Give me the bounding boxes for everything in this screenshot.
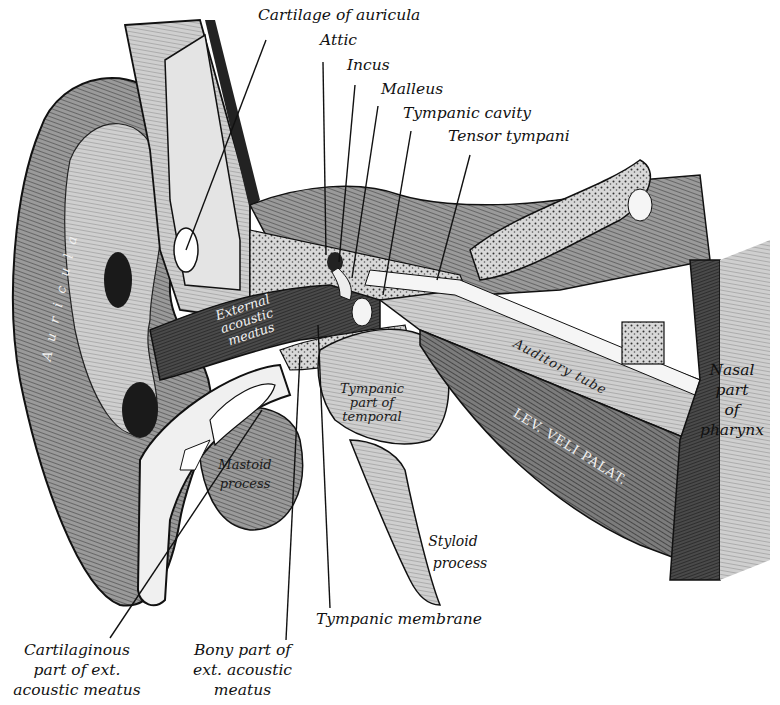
label-tympanic-membrane: Tympanic membrane xyxy=(316,610,482,628)
label-tympanic-cavity: Tympanic cavity xyxy=(403,104,531,122)
label-line: Cartilaginous xyxy=(2,640,152,660)
label-incus: Incus xyxy=(347,56,390,74)
label-line: part of ext. xyxy=(2,660,152,680)
label-line: part of xyxy=(322,396,422,410)
label-cartilage-of-auricula: Cartilage of auricula xyxy=(258,6,420,24)
label-line: Bony part of xyxy=(180,640,305,660)
label-line: process xyxy=(408,552,498,574)
label-attic: Attic xyxy=(320,31,357,49)
label-line: pharynx xyxy=(692,420,772,440)
ear-anatomy-illustration xyxy=(0,0,780,705)
label-cartilaginous-part: Cartilaginous part of ext. acoustic meat… xyxy=(2,640,152,700)
label-line: Nasal xyxy=(692,360,772,380)
label-line: of xyxy=(692,400,772,420)
styloid-process xyxy=(350,440,440,605)
label-tensor-tympani: Tensor tympani xyxy=(448,127,570,145)
label-nasal-part-of-pharynx: Nasal part of pharynx xyxy=(692,360,772,440)
label-line: meatus xyxy=(180,680,305,700)
label-line: part xyxy=(692,380,772,400)
label-line: ext. acoustic xyxy=(180,660,305,680)
inline-label-mastoid-process: Mastoid process xyxy=(200,455,290,493)
label-line: temporal xyxy=(322,410,422,424)
label-bony-part: Bony part of ext. acoustic meatus xyxy=(180,640,305,700)
label-line: Styloid xyxy=(408,530,498,552)
label-line: acoustic meatus xyxy=(2,680,152,700)
label-line: Tympanic xyxy=(322,382,422,396)
label-line: process xyxy=(200,474,290,493)
inline-label-tympanic-part-of-temporal: Tympanic part of temporal xyxy=(322,382,422,424)
label-line: Mastoid xyxy=(200,455,290,474)
label-malleus: Malleus xyxy=(381,80,443,98)
label-styloid-process: Styloid process xyxy=(408,530,498,574)
cranial-floor xyxy=(250,160,710,300)
